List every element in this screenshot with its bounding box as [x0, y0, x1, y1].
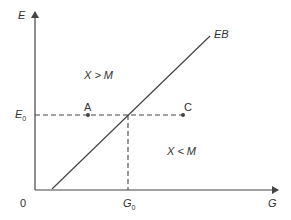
- region-upper-label: X > M: [84, 70, 113, 81]
- point-c: [181, 113, 185, 117]
- g0-label: G0: [123, 198, 135, 211]
- point-a: [86, 113, 90, 117]
- point-c-label: C: [184, 102, 192, 113]
- origin-label: 0: [20, 198, 26, 209]
- region-lower-label: X < M: [167, 146, 196, 157]
- y-axis-label: E: [18, 10, 25, 21]
- e0-label: E0: [15, 109, 26, 122]
- g0-symbol: G: [123, 197, 132, 209]
- diagram-canvas: [0, 0, 291, 220]
- point-a-label: A: [84, 102, 91, 113]
- eb-curve-label: EB: [214, 29, 229, 40]
- e0-subscript: 0: [22, 115, 26, 122]
- x-axis-label: G: [268, 198, 277, 209]
- g0-subscript: 0: [132, 204, 136, 211]
